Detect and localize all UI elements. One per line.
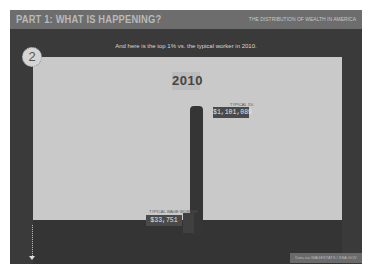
top-1-percent-value: $1,101,089 [213,107,249,118]
bar-typical-worker [183,213,194,233]
scroll-down-arrow-icon[interactable] [29,256,35,260]
header-subtitle: THE DISTRIBUTION OF WEALTH IN AMERICA [249,16,356,22]
typical-worker-label: TYPICAL WAGE WORKER [149,209,198,214]
slide-caption: And here is the top 1% vs. the typical w… [10,43,362,49]
page-title: PART 1: WHAT IS HAPPENING? [16,13,161,25]
typical-worker-value: $33,751 [146,215,182,226]
progress-dotted-line [32,225,33,258]
year-label: 2010 [172,72,200,90]
slide-frame: PART 1: WHAT IS HAPPENING? THE DISTRIBUT… [10,10,362,264]
source-button[interactable]: Data via WAGESTATS / SSA.GOV [290,253,362,263]
header-bar: PART 1: WHAT IS HAPPENING? THE DISTRIBUT… [10,10,362,29]
step-number-badge[interactable]: 2 [22,47,42,67]
year-label-box: 2010 [172,72,200,90]
